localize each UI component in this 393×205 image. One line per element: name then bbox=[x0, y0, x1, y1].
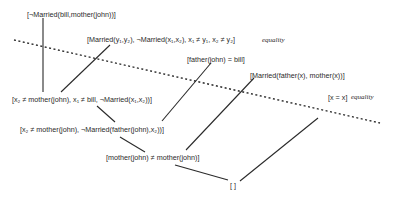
edge-step2-step3 bbox=[120, 137, 145, 152]
clause-step3: [mother(john) ≠ mother(john)] bbox=[106, 154, 199, 161]
edge-father-step2 bbox=[162, 63, 211, 121]
clause-step2: [x₂ ≠ mother(john), ¬Married(father(john… bbox=[20, 126, 164, 133]
resolution-diagram: [¬Married(bill,mother(john))] [Married(y… bbox=[0, 0, 393, 205]
clause-father-fact: [father(john) = bill] bbox=[187, 56, 245, 63]
clause-married-parents: [Married(father(x), mother(x))] bbox=[250, 72, 345, 79]
clause-married-equality: [Married(y₁,y₂), ¬Married(x₁,x₂), x₁ ≠ y… bbox=[87, 36, 235, 43]
separator-line bbox=[14, 40, 380, 123]
clause-reflexive: [x = x] bbox=[328, 94, 347, 101]
clause-goal: [¬Married(bill,mother(john))] bbox=[27, 11, 116, 18]
edge-step1-step2 bbox=[97, 106, 115, 122]
edge-reflexive-empty bbox=[240, 118, 318, 181]
edge-step3-empty bbox=[175, 165, 228, 180]
married-equality-note: equality bbox=[262, 36, 285, 44]
reflexive-note: equality bbox=[351, 93, 374, 101]
clause-step1: [x₂ ≠ mother(john), x₁ ≠ bill, ¬Married(… bbox=[12, 96, 152, 103]
edge-marriedparents-step3 bbox=[186, 78, 254, 150]
clause-empty: [ ] bbox=[230, 182, 236, 189]
